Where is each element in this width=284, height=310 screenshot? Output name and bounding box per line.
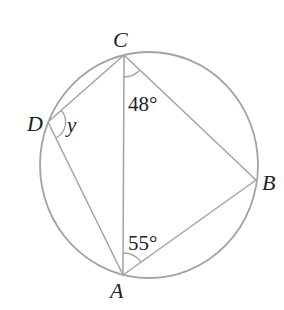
angle-label-a: 55° bbox=[128, 231, 157, 255]
vertex-label-b: B bbox=[262, 170, 275, 195]
vertex-label-a: A bbox=[108, 278, 124, 303]
vertex-label-c: C bbox=[113, 27, 128, 52]
segment-cb bbox=[124, 55, 256, 180]
cyclic-quadrilateral-diagram: C D B A 48° 55° y bbox=[0, 0, 284, 310]
segment-ca bbox=[123, 55, 124, 275]
vertex-label-d: D bbox=[26, 111, 43, 136]
segment-ab bbox=[123, 180, 256, 275]
angle-label-d: y bbox=[65, 113, 77, 137]
angle-label-c: 48° bbox=[128, 92, 157, 116]
segment-da bbox=[48, 122, 123, 275]
angle-arc-c bbox=[124, 70, 140, 77]
segment-cd bbox=[48, 55, 124, 122]
